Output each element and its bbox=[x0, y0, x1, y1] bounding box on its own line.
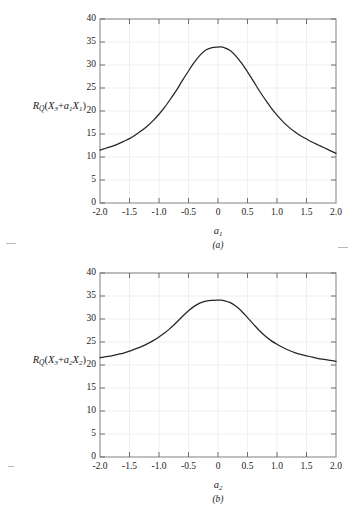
xlabel-sub-b: 2 bbox=[219, 484, 223, 492]
y-tick-label: 20 bbox=[74, 359, 96, 369]
panel-b: RQ(X3+a2X2) bbox=[0, 254, 352, 508]
panel-caption-a: (a) bbox=[198, 240, 238, 250]
y-tick-label: 20 bbox=[74, 105, 96, 115]
figure-container: RQ(X3+a1X1) bbox=[0, 0, 352, 508]
y-tick-label: 15 bbox=[74, 382, 96, 392]
y-tick-label: 35 bbox=[74, 36, 96, 46]
x-axis-label-b: a2 bbox=[198, 479, 238, 492]
y-tick-label: 40 bbox=[74, 13, 96, 23]
x-tick-label: 2.0 bbox=[319, 461, 352, 471]
y-tick-label: 35 bbox=[74, 290, 96, 300]
y-tick-label: 0 bbox=[74, 197, 96, 207]
y-tick-label: 30 bbox=[74, 313, 96, 323]
scan-edge-mark-right bbox=[338, 247, 348, 248]
y-tick-label: 10 bbox=[74, 151, 96, 161]
y-tick-label: 15 bbox=[74, 128, 96, 138]
scan-edge-mark-left bbox=[6, 243, 16, 244]
y-tick-label: 30 bbox=[74, 59, 96, 69]
y-tick-label: 5 bbox=[74, 174, 96, 184]
x-axis-label-a: a1 bbox=[198, 225, 238, 238]
x-tick-label: 2.0 bbox=[319, 207, 352, 217]
panel-a: RQ(X3+a1X1) bbox=[0, 0, 352, 254]
scan-edge-mark-bottom-left bbox=[8, 466, 14, 467]
xlabel-sub-a: 1 bbox=[219, 230, 223, 238]
y-tick-label: 25 bbox=[74, 82, 96, 92]
y-tick-label: 25 bbox=[74, 336, 96, 346]
y-tick-label: 0 bbox=[74, 451, 96, 461]
y-tick-label: 40 bbox=[74, 267, 96, 277]
panel-caption-b: (b) bbox=[198, 494, 238, 504]
y-tick-label: 10 bbox=[74, 405, 96, 415]
y-tick-label: 5 bbox=[74, 428, 96, 438]
